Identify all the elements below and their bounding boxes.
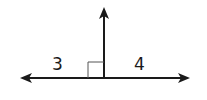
right-angle-marker-icon [88,62,104,78]
angle-label-3: 3 [52,54,63,74]
angle-label-4: 4 [134,54,145,74]
perpendicular-lines-diagram: 3 4 [0,0,207,100]
